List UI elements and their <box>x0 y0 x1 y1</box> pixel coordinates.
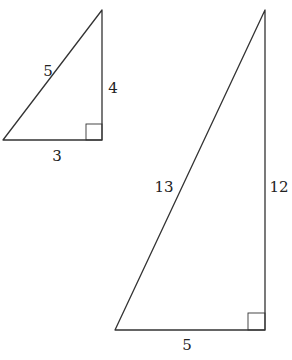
large-vertical-leg-label: 12 <box>269 178 288 196</box>
small-triangle: 5 4 3 <box>3 10 118 165</box>
small-hypotenuse-label: 5 <box>43 62 53 80</box>
large-triangle: 13 12 5 <box>115 10 289 354</box>
large-triangle-outline <box>115 10 265 330</box>
small-right-angle-marker <box>86 124 102 140</box>
large-hypotenuse-label: 13 <box>154 178 173 196</box>
large-right-angle-marker <box>248 313 265 330</box>
large-base-label: 5 <box>182 336 192 354</box>
small-vertical-leg-label: 4 <box>108 79 118 97</box>
similar-right-triangles-diagram: 5 4 3 13 12 5 <box>0 0 292 360</box>
small-base-label: 3 <box>52 147 62 165</box>
